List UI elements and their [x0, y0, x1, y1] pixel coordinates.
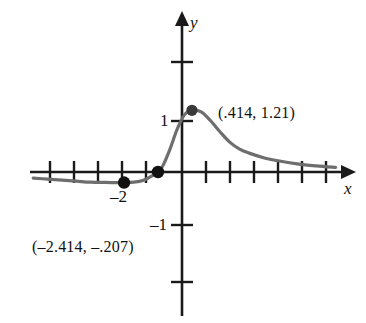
y-axis-label: y [190, 14, 198, 31]
local-minimum-annotation: (–2.414, –.207) [32, 239, 134, 255]
x-intercept-point [152, 166, 164, 178]
y-tick-label-1: 1 [160, 112, 169, 129]
y-axis [175, 11, 189, 316]
marked-points [118, 105, 198, 189]
y-tick-label-negative-1: –1 [150, 216, 167, 233]
x-axis-label: x [344, 180, 352, 197]
coordinate-plane [0, 0, 366, 323]
x-axis [30, 165, 356, 179]
graph-figure: 1 –1 –2 x y (.414, 1.21) (–2.414, –.207) [0, 0, 366, 323]
x-tick-label-negative-2: –2 [110, 188, 127, 205]
local-maximum-annotation: (.414, 1.21) [218, 105, 295, 121]
local-maximum-point [186, 105, 197, 116]
